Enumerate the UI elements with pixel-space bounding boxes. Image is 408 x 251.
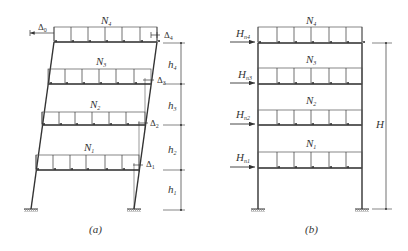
svg-text:N3: N3 — [95, 55, 106, 68]
svg-text:Δ0: Δ0 — [38, 22, 47, 33]
total-height-dimension: H — [372, 42, 392, 210]
svg-text:h3: h3 — [168, 99, 177, 112]
svg-text:N3: N3 — [305, 53, 316, 66]
horizontal-force-hn2: Hn2 — [230, 108, 255, 124]
displacement-delta1: Δ1 — [133, 159, 155, 209]
svg-text:Hn4: Hn4 — [235, 27, 250, 40]
svg-text:Δ2: Δ2 — [150, 118, 159, 129]
svg-text:Δ1: Δ1 — [146, 159, 155, 170]
storey-dimension: h4 h3 h2 h1 — [163, 42, 185, 211]
svg-text:N4: N4 — [305, 14, 316, 27]
svg-text:N4: N4 — [100, 14, 111, 27]
svg-text:N2: N2 — [89, 98, 100, 111]
displacement-delta4: Δ4 — [151, 30, 173, 41]
panel-b: N4 N3 N2 N1 — [230, 14, 392, 236]
support-left — [24, 209, 38, 212]
support-left — [251, 209, 265, 212]
displacement-delta0: Δ0 — [30, 22, 54, 36]
svg-text:Hn3: Hn3 — [237, 68, 252, 81]
load-n1: N1 — [36, 141, 139, 170]
load-n2: N2 — [258, 94, 362, 125]
svg-text:Hn2: Hn2 — [235, 108, 250, 121]
structural-frame-diagram: N4 N3 N2 — [0, 0, 408, 251]
horizontal-force-hn4: Hn4 — [230, 27, 255, 42]
support-right — [355, 209, 369, 212]
support-right — [127, 209, 141, 212]
svg-text:N2: N2 — [305, 94, 316, 107]
svg-text:Hn1: Hn1 — [235, 151, 250, 164]
panel-a: N4 N3 N2 — [24, 14, 185, 236]
svg-text:h1: h1 — [168, 183, 177, 196]
load-n3: N3 — [48, 55, 151, 84]
load-n2: N2 — [42, 98, 145, 125]
svg-text:H: H — [375, 118, 385, 130]
svg-text:Δ4: Δ4 — [164, 30, 173, 41]
caption-a: (a) — [89, 223, 102, 236]
horizontal-force-hn1: Hn1 — [230, 151, 255, 167]
svg-text:h4: h4 — [168, 58, 177, 71]
load-n1: N1 — [258, 137, 362, 168]
horizontal-force-hn3: Hn3 — [230, 68, 255, 83]
load-n4: N4 — [54, 14, 157, 42]
svg-text:N1: N1 — [305, 137, 316, 150]
svg-text:N1: N1 — [83, 141, 94, 154]
caption-b: (b) — [305, 223, 318, 236]
load-n3: N3 — [258, 53, 362, 84]
svg-text:Δ3: Δ3 — [157, 75, 166, 86]
svg-text:h2: h2 — [168, 143, 177, 156]
load-n4: N4 — [258, 14, 362, 43]
